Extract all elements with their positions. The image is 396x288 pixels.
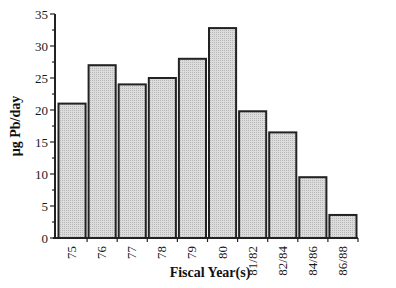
x-tick-label: 84/86	[305, 246, 320, 276]
x-tick-label: 80	[215, 246, 230, 259]
bars-group	[59, 28, 357, 238]
bar-82-84	[269, 132, 296, 238]
y-tick-label: 5	[42, 199, 49, 214]
y-axis: 05101520253035	[35, 7, 55, 246]
bar-77	[119, 84, 146, 238]
bar-78	[149, 78, 176, 238]
x-tick-label: 86/88	[335, 246, 350, 276]
x-tick-label: 78	[154, 246, 169, 259]
x-tick-label: 82/84	[275, 246, 290, 276]
x-tick-label: 76	[94, 246, 109, 260]
y-tick-label: 25	[35, 71, 48, 86]
y-tick-label: 20	[35, 103, 48, 118]
x-tick-label: 75	[64, 246, 79, 259]
y-tick-label: 35	[35, 7, 48, 22]
bar-chart: 05101520253035 75767778798081/8282/8484/…	[0, 0, 396, 288]
x-axis-title: Fiscal Year(s)	[170, 265, 251, 281]
y-tick-label: 30	[35, 39, 48, 54]
y-tick-label: 10	[35, 167, 48, 182]
x-tick-label: 77	[124, 246, 139, 260]
bar-79	[179, 59, 206, 238]
y-axis-title: µg Pb/day	[8, 96, 23, 157]
bar-84-86	[299, 177, 326, 238]
bar-86-88	[329, 215, 356, 238]
bar-81-82	[239, 111, 266, 238]
bar-80	[209, 28, 236, 238]
x-tick-label: 79	[184, 246, 199, 259]
y-tick-label: 15	[35, 135, 48, 150]
bar-75	[59, 104, 86, 238]
bar-76	[89, 65, 116, 238]
y-tick-label: 0	[42, 231, 49, 246]
